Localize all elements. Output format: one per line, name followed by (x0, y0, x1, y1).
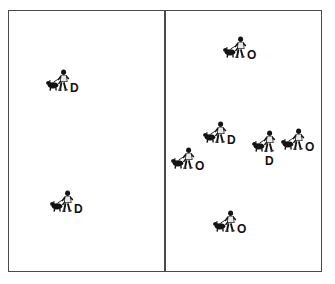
panel-divider (164, 10, 166, 272)
marker-label: O (237, 223, 246, 235)
marker-label: D (227, 134, 236, 146)
marker-label: D (265, 155, 274, 167)
marker-label: O (247, 49, 256, 61)
marker-label: D (70, 82, 79, 94)
figure-canvas: D D (0, 0, 335, 284)
marker-label: D (74, 203, 83, 215)
marker-label: O (195, 160, 204, 172)
person-walking-dog-icon (252, 128, 280, 156)
marker-label: O (305, 141, 314, 153)
